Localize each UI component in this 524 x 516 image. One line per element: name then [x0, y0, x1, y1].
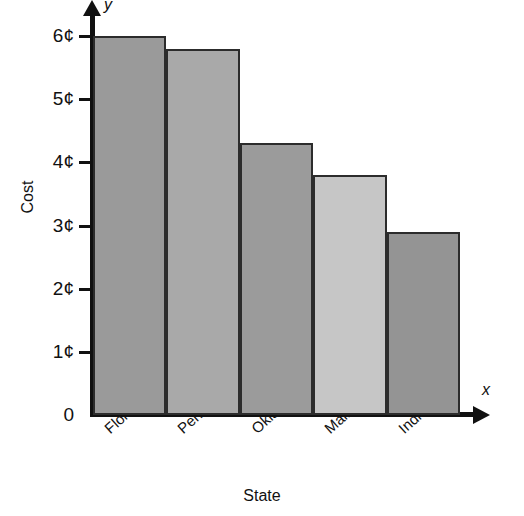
bar-oklahoma: [240, 143, 313, 415]
y-axis-tick-label: 5¢: [30, 89, 74, 108]
y-axis-symbol-label: y: [104, 0, 112, 14]
y-axis-tick-label: 2¢: [30, 279, 74, 298]
x-axis-category-labels: FloridaPennsylvaniaOklahomaMaineIndiana: [93, 418, 473, 498]
plot-area: [93, 14, 460, 415]
x-axis-symbol-label: x: [482, 381, 490, 399]
bar-chart: y x 01¢2¢3¢4¢5¢6¢ Cost FloridaPennsylvan…: [0, 0, 524, 516]
y-axis-tick: [79, 225, 90, 228]
y-axis-tick-label: 1¢: [30, 342, 74, 361]
y-axis-tick-label: 6¢: [30, 26, 74, 45]
bar-pennsylvania: [166, 49, 239, 415]
bar-maine: [313, 175, 386, 415]
y-axis-tick-label: 0: [30, 405, 74, 424]
y-axis-tick: [79, 351, 90, 354]
y-axis-tick: [79, 98, 90, 101]
y-axis-title: Cost: [19, 157, 37, 237]
y-axis-tick: [79, 35, 90, 38]
x-axis-title: State: [0, 487, 524, 505]
y-axis-tick: [79, 161, 90, 164]
bar-florida: [93, 36, 166, 415]
x-axis-arrow-icon: [473, 406, 490, 424]
y-axis-tick-labels: 01¢2¢3¢4¢5¢6¢: [20, 0, 74, 516]
bar-indiana: [387, 232, 460, 415]
y-axis-tick: [79, 288, 90, 291]
